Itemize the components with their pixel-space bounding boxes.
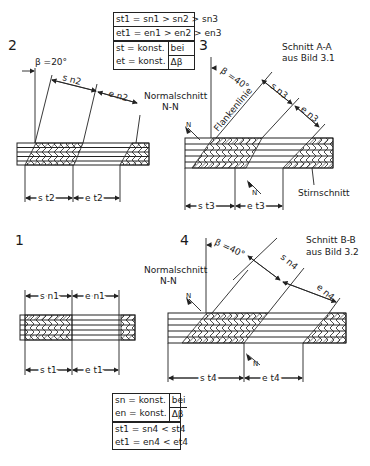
panel-3-title-1: Schnitt A-A [282, 42, 332, 52]
panel-1: 1 s n1 e n1 s t1 e t1 [15, 232, 135, 375]
panel-4-title-1: Schnitt B-B [306, 235, 356, 245]
panel-4-st4: s t4 [200, 373, 217, 383]
panel-4: 4 β =40° Schnitt B-B aus Bild 3.2 Normal… [144, 232, 359, 383]
panel-3-number: 3 [199, 37, 208, 53]
panel-3-et3: e t3 [247, 201, 265, 211]
panel-1-sn1: s n1 [40, 291, 59, 301]
panel-4-normal-2: N-N [160, 276, 177, 286]
bottom-formula-line-1: sn = konst. [113, 394, 169, 407]
panel-4-en4: e n4 [315, 282, 337, 303]
panel-2-et2: e t2 [85, 193, 103, 203]
panel-4-normal-1: Normalschnitt [144, 265, 208, 275]
panel-3-normal-1: Normalschnitt [144, 91, 208, 101]
panel-2-sn2: s n2 [61, 72, 82, 87]
panel-4-et4: e t4 [262, 373, 280, 383]
bottom-formula-line-3: st1 = sn4 < st4 [113, 423, 180, 436]
bottom-formula-line-4: et1 = en4 < et4 [113, 436, 180, 449]
panel-2-en2: e n2 [107, 88, 129, 103]
top-formula-line-2: et1 = en1 > en2 > en3 [114, 27, 194, 42]
panel-3-stirn: Stirnschnitt [298, 188, 350, 198]
panel-1-et1: e t1 [85, 365, 103, 375]
panel-2-st2: s t2 [38, 193, 55, 203]
panel-4-beta: β =40° [213, 237, 246, 260]
panel-4-sn4: s n4 [279, 252, 300, 272]
panel-1-en1: e n1 [85, 291, 105, 301]
bottom-formula-box: sn = konst. en = konst. bei Δβ st1 = sn4… [112, 393, 181, 450]
panel-3-st3: s t3 [198, 201, 215, 211]
top-formula-line-4: et = konst. [114, 55, 168, 68]
panel-2-beta: β =20° [35, 57, 67, 67]
bottom-formula-line-2: en = konst. [113, 407, 169, 420]
panel-4-N-top: N [186, 292, 191, 300]
panel-1-st1: s t1 [40, 365, 57, 375]
panel-4-N-bottom: N [253, 360, 258, 368]
panel-3-sn3: s n3 [269, 81, 290, 101]
bottom-formula-delta-beta: Δβ [170, 408, 188, 421]
panel-1-number: 1 [15, 232, 24, 248]
top-formula-box: st1 = sn1 > sn2 > sn3 et1 = en1 > en2 > … [113, 12, 195, 70]
panel-3-flank: Flankenlinie [212, 85, 255, 133]
panel-3-N-top: N [186, 121, 191, 129]
panel-4-title-2: aus Bild 3.2 [306, 247, 359, 257]
panel-3-normal-2: N-N [162, 102, 179, 112]
panel-3-N-bottom: N [252, 189, 257, 197]
panel-3-title-2: aus Bild 3.1 [282, 53, 335, 63]
panel-3-en3: e n3 [299, 104, 321, 124]
bottom-formula-bei: bei [170, 394, 188, 408]
top-formula-line-1: st1 = sn1 > sn2 > sn3 [114, 13, 194, 27]
panel-2-number: 2 [8, 37, 17, 53]
top-formula-delta-beta: Δβ [169, 56, 194, 69]
top-formula-line-3: st = konst. [114, 42, 168, 55]
top-formula-bei: bei [169, 42, 194, 56]
panel-4-number: 4 [180, 232, 189, 248]
